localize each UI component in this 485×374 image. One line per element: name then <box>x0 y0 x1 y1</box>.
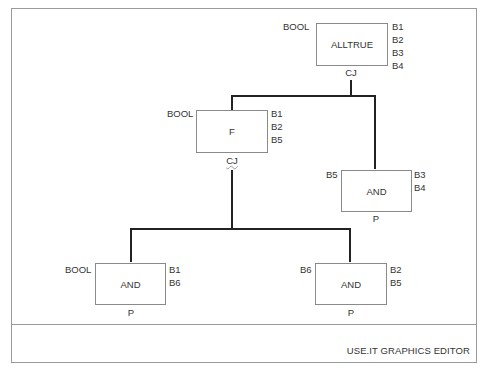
node-and-left-box[interactable]: AND <box>95 263 166 305</box>
node-f-box[interactable]: F <box>196 110 268 153</box>
node-f-output-port[interactable]: CJ <box>217 155 247 166</box>
input-label: B4 <box>392 59 404 72</box>
node-alltrue-box[interactable]: ALLTRUE <box>316 23 388 66</box>
input-label: B2 <box>390 263 402 276</box>
input-label: B1 <box>392 20 404 33</box>
node-alltrue-output-port[interactable]: CJ <box>336 67 366 78</box>
node-and-bottom-right-right-inputs: B2 B5 <box>390 263 402 289</box>
connector-to-and-left <box>130 228 132 262</box>
input-label: B1 <box>169 263 181 276</box>
connector-top-horizontal <box>231 95 376 97</box>
connector-to-and-right <box>374 95 376 169</box>
input-label: B5 <box>390 276 402 289</box>
status-bar-title: USE.IT GRAPHICS EDITOR <box>347 345 470 356</box>
connector-f-down <box>231 170 233 230</box>
connector-alltrue-down <box>350 80 352 96</box>
node-alltrue-right-inputs: B1 B2 B3 B4 <box>392 20 404 72</box>
input-label: B2 <box>271 120 283 133</box>
connector-to-f <box>231 95 233 110</box>
node-f-right-inputs: B1 B2 B5 <box>271 107 283 146</box>
connector-to-and-bottom-right <box>349 228 351 262</box>
input-label: B5 <box>271 133 283 146</box>
connector-bottom-horizontal <box>130 228 351 230</box>
input-label: B6 <box>169 276 181 289</box>
input-label: B2 <box>392 33 404 46</box>
input-label: B3 <box>392 46 404 59</box>
node-alltrue-left-input: BOOL <box>283 20 309 33</box>
node-and-bottom-right-output-port[interactable]: P <box>336 307 366 318</box>
input-label: B4 <box>414 181 426 194</box>
node-and-bottom-right-box[interactable]: AND <box>315 263 387 305</box>
status-divider <box>11 324 477 325</box>
node-and-right-left-input: B5 <box>326 168 338 181</box>
node-f-left-input: BOOL <box>167 107 193 120</box>
node-and-bottom-right-left-input: B6 <box>300 263 312 276</box>
input-label: B1 <box>271 107 283 120</box>
node-and-left-output-port[interactable]: P <box>116 307 146 318</box>
node-and-right-box[interactable]: AND <box>341 170 412 212</box>
input-label: B3 <box>414 168 426 181</box>
node-and-left-left-input: BOOL <box>65 263 91 276</box>
node-and-right-right-inputs: B3 B4 <box>414 168 426 194</box>
node-and-left-right-inputs: B1 B6 <box>169 263 181 289</box>
node-and-right-output-port[interactable]: P <box>361 213 391 224</box>
